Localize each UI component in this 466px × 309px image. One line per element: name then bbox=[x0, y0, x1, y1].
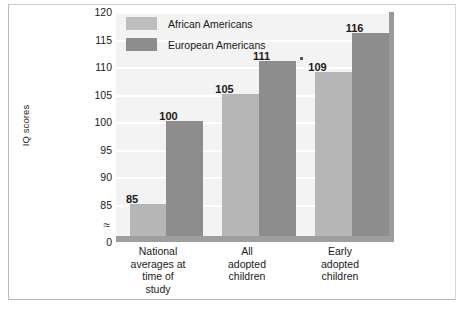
x-category-label-all-adopted-children: All adopted children bbox=[207, 245, 287, 283]
bar-value-early-adopted-european-americans: 116 bbox=[334, 22, 375, 34]
cat-line: All bbox=[207, 245, 287, 258]
chart-legend: African Americans European Americans bbox=[126, 16, 316, 54]
y-tick-115: 115 bbox=[72, 34, 112, 46]
bar-chart: IQ scores 120 115 110 105 100 95 90 85 ≈… bbox=[0, 0, 466, 309]
x-category-label-national-averages: National averages at time of study bbox=[114, 245, 202, 295]
bar-early-adopted-european-americans bbox=[352, 33, 389, 236]
x-category-label-early-adopted-children: Early adopted children bbox=[300, 245, 380, 283]
plot-right-wall bbox=[389, 12, 394, 240]
bar-early-adopted-african-americans bbox=[315, 72, 352, 236]
legend-label-european-americans: European Americans bbox=[168, 39, 265, 51]
bar-value-early-adopted-african-americans: 109 bbox=[297, 61, 338, 73]
bar-national-african-americans bbox=[130, 204, 166, 236]
y-tick-105: 105 bbox=[72, 89, 112, 101]
y-tick-120: 120 bbox=[72, 6, 112, 18]
y-tick-90: 90 bbox=[72, 171, 112, 183]
y-tick-zero: 0 bbox=[72, 236, 112, 248]
cat-line: time of bbox=[114, 270, 202, 283]
bar-value-national-african-americans: 85 bbox=[112, 193, 152, 205]
y-tick-100: 100 bbox=[72, 116, 112, 128]
gridline-110 bbox=[116, 67, 391, 69]
cat-line: adopted bbox=[207, 258, 287, 271]
y-tick-85: 85 bbox=[72, 199, 112, 211]
figure-root: IQ scores 120 115 110 105 100 95 90 85 ≈… bbox=[0, 0, 466, 309]
bar-value-national-european-americans: 100 bbox=[148, 110, 189, 122]
bar-national-european-americans bbox=[166, 121, 203, 236]
y-tick-95: 95 bbox=[72, 144, 112, 156]
cat-line: National bbox=[114, 245, 202, 258]
cat-line: adopted bbox=[300, 258, 380, 271]
plot-floor-axis bbox=[116, 236, 394, 242]
legend-label-african-americans: African Americans bbox=[168, 18, 253, 30]
bar-all-adopted-african-americans bbox=[222, 94, 259, 236]
bar-all-adopted-european-americans bbox=[259, 61, 296, 236]
cat-line: children bbox=[300, 270, 380, 283]
axis-break-symbol: ≈ bbox=[70, 218, 110, 232]
scan-speck-artifact bbox=[300, 57, 303, 60]
bar-value-all-adopted-african-americans: 105 bbox=[204, 83, 245, 95]
cat-line: Early bbox=[300, 245, 380, 258]
y-tick-110: 110 bbox=[72, 61, 112, 73]
legend-entry-african-americans: African Americans bbox=[126, 16, 253, 31]
legend-entry-european-americans: European Americans bbox=[126, 37, 265, 52]
y-axis-title: IQ scores bbox=[20, 81, 31, 171]
gridline-120 bbox=[116, 12, 391, 14]
legend-swatch-icon-african-americans bbox=[126, 17, 157, 30]
cat-line: children bbox=[207, 270, 287, 283]
cat-line: averages at bbox=[114, 258, 202, 271]
y-axis-tick-labels: 120 115 110 105 100 95 90 85 ≈ 0 bbox=[68, 12, 112, 236]
legend-swatch-icon-european-americans bbox=[126, 38, 157, 51]
cat-line: study bbox=[114, 283, 202, 296]
